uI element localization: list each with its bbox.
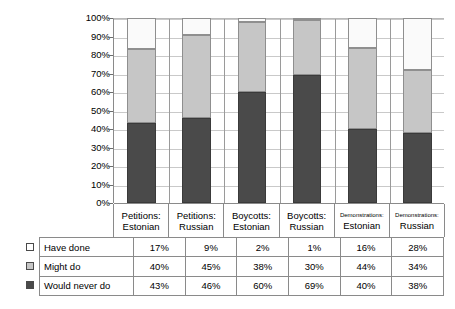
category-label-line1: Demonstrations: (340, 210, 384, 220)
bar-segment-would-never-do (182, 118, 211, 203)
bar-segment-would-never-do (348, 129, 377, 203)
bar-segment-might-do (403, 70, 432, 133)
y-axis-tick-label: 40% (66, 124, 110, 134)
table-row: Might do40%45%38%30%44%34% (40, 257, 444, 276)
category-label-line2: Estonian (233, 221, 270, 232)
legend-swatch-never (26, 281, 34, 289)
category-label-cell: Boycotts:Estonian (223, 204, 279, 237)
bar-segment-would-never-do (127, 123, 156, 203)
bar-segment-might-do (238, 22, 267, 92)
stacked-bar (127, 18, 156, 203)
bar-segment-have-done (127, 18, 156, 49)
stacked-bar (238, 18, 267, 203)
category-label-row: Petitions:EstonianPetitions:RussianBoyco… (113, 204, 444, 237)
y-axis-tick-label: 20% (66, 161, 110, 171)
category-label-line1: Boycotts: (287, 210, 326, 221)
table-cell-value: 43% (134, 276, 186, 295)
category-label-cell: Demonstrations:Estonian (334, 204, 390, 237)
bar-segment-might-do (182, 35, 211, 118)
category-label-line1: Petitions: (122, 210, 161, 221)
table-cell-value: 40% (340, 276, 392, 295)
y-axis-tick-label: 80% (66, 50, 110, 60)
y-axis-tick-label: 30% (66, 143, 110, 153)
table-row: Have done17%9%2%1%16%28% (40, 238, 444, 257)
stacked-bar-chart: 0%10%20%30%40%50%60%70%80%90%100% Petiti… (0, 0, 455, 222)
table-cell-value: 1% (288, 238, 340, 257)
table-row: Would never do43%46%60%69%40%38% (40, 276, 444, 295)
category-separator (280, 19, 281, 203)
table-cell-value: 69% (288, 276, 340, 295)
category-label-cell: Petitions:Estonian (113, 204, 169, 237)
table-cell-value: 9% (185, 238, 237, 257)
y-axis-tick-label: 100% (66, 13, 110, 22)
category-separator (335, 19, 336, 203)
stacked-bar (403, 18, 432, 203)
y-axis-tick-label: 10% (66, 180, 110, 190)
legend-swatch-cell (26, 256, 39, 275)
category-label-line1: Demonstrations: (395, 210, 439, 220)
table-cell-value: 38% (392, 276, 444, 295)
legend-swatch-cell (26, 276, 39, 295)
category-label-cell: Petitions:Russian (168, 204, 224, 237)
category-separator (390, 19, 391, 203)
category-label-cell: Boycotts:Russian (279, 204, 335, 237)
table-cell-value: 60% (237, 276, 289, 295)
legend-swatch-column (26, 237, 39, 295)
category-label-line2: Estonian (343, 220, 380, 231)
data-table: Have done17%9%2%1%16%28%Might do40%45%38… (39, 237, 444, 296)
stacked-bar (348, 18, 377, 203)
table-cell-value: 28% (392, 238, 444, 257)
bar-segment-would-never-do (403, 133, 432, 203)
table-cell-value: 44% (340, 257, 392, 276)
bar-segment-would-never-do (293, 75, 322, 203)
bar-segment-have-done (182, 18, 211, 35)
data-table-body: Have done17%9%2%1%16%28%Might do40%45%38… (40, 238, 444, 296)
category-label-line1: Petitions: (177, 210, 216, 221)
bar-segment-have-done (403, 18, 432, 70)
plot-area (113, 18, 444, 203)
table-cell-value: 34% (392, 257, 444, 276)
bar-segment-have-done (348, 18, 377, 48)
table-cell-value: 45% (185, 257, 237, 276)
legend-swatch-might (26, 262, 34, 270)
stacked-bar (293, 18, 322, 203)
category-label-line2: Russian (400, 220, 434, 231)
category-label-line2: Russian (289, 221, 323, 232)
stacked-bar (182, 18, 211, 203)
table-cell-value: 17% (134, 238, 186, 257)
table-row-label: Would never do (40, 276, 134, 295)
category-label-line2: Estonian (123, 221, 160, 232)
table-cell-value: 40% (134, 257, 186, 276)
bar-segment-might-do (348, 48, 377, 129)
data-table-wrapper: Have done17%9%2%1%16%28%Might do40%45%38… (26, 237, 444, 295)
category-label-line2: Russian (179, 221, 213, 232)
category-separator (224, 19, 225, 203)
table-cell-value: 46% (185, 276, 237, 295)
table-row-label: Have done (40, 238, 134, 257)
table-cell-value: 16% (340, 238, 392, 257)
y-axis-tick-label: 0% (66, 198, 110, 208)
y-axis-tick-label: 60% (66, 87, 110, 97)
legend-swatch-have (26, 243, 34, 251)
bar-segment-would-never-do (238, 92, 267, 203)
table-row-label: Might do (40, 257, 134, 276)
table-cell-value: 30% (288, 257, 340, 276)
category-separator (169, 19, 170, 203)
legend-swatch-cell (26, 237, 39, 256)
y-axis-tick-label: 70% (66, 69, 110, 79)
category-label-cell: Demonstrations:Russian (389, 204, 445, 237)
table-cell-value: 2% (237, 238, 289, 257)
y-axis: 0%10%20%30%40%50%60%70%80%90%100% (64, 0, 110, 222)
y-axis-tick-label: 90% (66, 32, 110, 42)
table-cell-value: 38% (237, 257, 289, 276)
y-axis-tick-label: 50% (66, 106, 110, 116)
bar-segment-might-do (293, 20, 322, 75)
bar-segment-might-do (127, 49, 156, 123)
category-label-line1: Boycotts: (232, 210, 271, 221)
